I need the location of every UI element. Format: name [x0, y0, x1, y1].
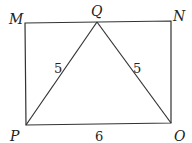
label-m: M [8, 11, 24, 27]
label-q: Q [91, 3, 103, 19]
geometry-diagram: M Q N P O 5 5 6 [0, 0, 192, 143]
length-qo: 5 [133, 61, 141, 76]
rectangle-mnop [25, 21, 171, 125]
label-n: N [172, 8, 186, 24]
label-o: O [174, 128, 186, 143]
length-po: 6 [95, 129, 103, 143]
label-p: P [9, 128, 20, 143]
length-pq: 5 [54, 61, 62, 76]
